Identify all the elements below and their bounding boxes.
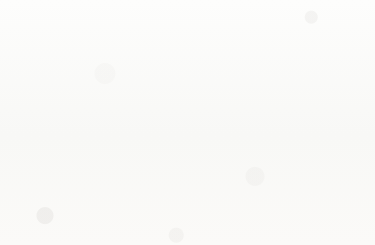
line-chart: 020,00040,00060,00080,0001,00,0001,20,00… bbox=[0, 0, 375, 245]
x-tick-label: Minnesota bbox=[130, 191, 164, 225]
x-tick-label: Arizona bbox=[278, 191, 306, 219]
data-series bbox=[56, 38, 374, 177]
x-axis-tick-labels: CaliforniaNew JerseyGeorgiaMinnesotaVirg… bbox=[25, 191, 375, 229]
y-tick-label: 80,000 bbox=[26, 105, 50, 115]
x-tick-label: Washington bbox=[232, 191, 269, 228]
x-tick-label: Nebraska bbox=[344, 191, 375, 223]
series-line bbox=[56, 38, 374, 177]
y-tick-label: 1,20,000 bbox=[20, 66, 50, 76]
gridlines bbox=[56, 14, 374, 188]
x-tick-label: Oregon bbox=[314, 191, 340, 217]
y-tick-label: 1,80,000 bbox=[20, 8, 50, 18]
x-tick-label: Virginia bbox=[171, 191, 199, 219]
y-tick-label: 1,00,000 bbox=[20, 86, 50, 96]
x-tick-label: California bbox=[25, 191, 58, 224]
y-tick-label: 20,000 bbox=[26, 163, 50, 173]
y-tick-label: 1,40,000 bbox=[20, 47, 50, 57]
y-tick-label: 0 bbox=[46, 182, 50, 192]
y-tick-label: 40,000 bbox=[26, 144, 50, 154]
x-tick-label: New Jersey bbox=[57, 191, 93, 227]
y-tick-label: 60,000 bbox=[26, 124, 50, 134]
y-tick-label: 1,60,000 bbox=[20, 28, 50, 38]
y-axis-tick-labels: 020,00040,00060,00080,0001,00,0001,20,00… bbox=[20, 8, 50, 192]
x-tick-label: Georgia bbox=[101, 191, 129, 219]
chart-canvas: 020,00040,00060,00080,0001,00,0001,20,00… bbox=[0, 0, 375, 245]
x-tick-label: Colorado bbox=[204, 191, 234, 221]
